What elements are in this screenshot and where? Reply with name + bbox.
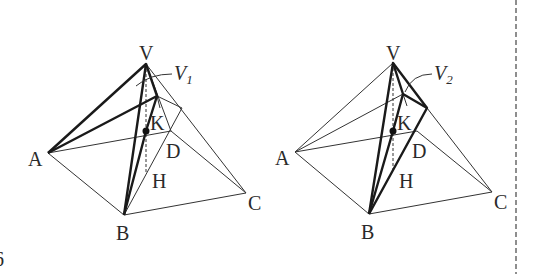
edge-AD	[295, 131, 417, 152]
label-V1: V1	[174, 62, 193, 87]
label-V: V	[139, 42, 154, 64]
label-A: A	[275, 147, 290, 169]
left-pyramid-figure: V A B C D H K V1	[28, 42, 261, 244]
label-K: K	[150, 112, 165, 134]
thick-edge-top	[146, 64, 157, 96]
edge-BC	[369, 192, 492, 214]
label-B: B	[116, 222, 129, 244]
label-A: A	[28, 148, 43, 170]
point-K	[143, 128, 150, 135]
edge-BC	[124, 193, 246, 215]
edge-VC-lower	[427, 108, 492, 192]
label-D: D	[412, 140, 426, 162]
thick-face-BVC	[369, 63, 427, 214]
edge-AB	[295, 152, 369, 214]
label-V: V	[386, 42, 401, 64]
edge-DC	[417, 131, 492, 192]
edge-DC	[171, 131, 246, 193]
right-pyramid-figure: V A B C D H K V2	[275, 42, 507, 243]
label-H: H	[152, 170, 166, 192]
label-V2: V2	[434, 62, 453, 87]
label-H: H	[399, 170, 413, 192]
label-C: C	[248, 192, 261, 214]
label-B: B	[361, 221, 374, 243]
label-C: C	[494, 191, 507, 213]
label-D: D	[166, 140, 180, 162]
diagram-canvas: V A B C D H K V1 V A B C D H K V2 6	[0, 0, 537, 274]
label-K: K	[397, 112, 412, 134]
inner-edge	[157, 96, 182, 108]
point-K	[390, 128, 397, 135]
figure-number: 6	[0, 248, 4, 270]
edge-AB	[48, 153, 124, 215]
